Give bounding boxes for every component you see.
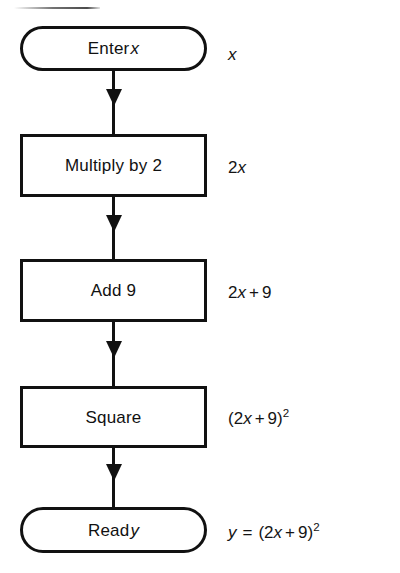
node-add-label-text: Add 9 [91,281,136,300]
node-read[interactable]: Ready [20,507,207,553]
arrowhead-square-to-read [106,464,122,481]
expression-square-term-3: 9) [268,409,283,428]
node-enter-label-text: Enter [88,39,130,58]
expression-add-operator: + [246,283,262,302]
arrowhead-add-to-square [106,341,122,358]
expression-add-term-3: 9 [262,283,271,302]
expression-square-term-1: (2 [228,409,243,428]
expression-enter-term-1: x [228,45,237,64]
node-enter-label: Enterx [88,40,139,57]
node-multiply[interactable]: Multiply by 2 [20,134,207,197]
node-square[interactable]: Square [20,386,207,448]
node-add-label: Add 9 [91,282,136,299]
expression-square: (2x+9)2 [228,410,289,427]
arrowhead-enter-to-multiply [106,89,122,106]
expression-square-exponent: 2 [283,407,289,419]
node-add[interactable]: Add 9 [20,259,207,322]
node-read-label-text: Read [88,521,129,540]
expression-read: y=(2x+9)2 [228,524,320,541]
node-read-label: Ready [88,522,139,539]
arrowhead-multiply-to-add [106,215,122,232]
node-multiply-label: Multiply by 2 [65,157,162,174]
expression-multiply: 2x [228,159,246,176]
expression-read-term-3: x [274,523,283,542]
expression-square-term-2: x [243,409,252,428]
expression-read-operator: + [282,523,298,542]
expression-square-operator: + [252,409,268,428]
expression-add-term-2: x [237,283,246,302]
node-enter-label-variable: x [129,39,139,58]
expression-read-term-4: 9) [298,523,313,542]
flowchart-canvas: Enterx x Multiply by 2 2x Add 9 2x+9 Squ… [0,0,400,573]
expression-add: 2x+9 [228,284,271,301]
expression-enter: x [228,46,237,63]
expression-read-term-1: y [228,523,237,542]
node-square-label: Square [85,409,141,426]
node-enter[interactable]: Enterx [20,26,207,71]
expression-read-exponent: 2 [313,521,319,533]
scan-artifact [14,7,100,9]
node-multiply-label-text: Multiply by 2 [65,156,162,175]
expression-multiply-term-2: x [237,158,246,177]
expression-read-term-2: (2 [258,523,273,542]
node-square-label-text: Square [85,408,141,427]
node-read-label-variable: y [129,521,139,540]
expression-read-equals: = [237,523,259,542]
